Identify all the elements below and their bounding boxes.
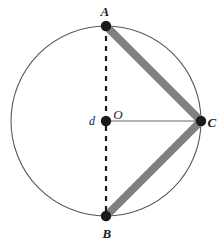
point-a-dot [101,21,111,31]
point-c-dot [196,116,206,126]
point-o-dot [101,116,111,126]
point-o-label: O [113,108,122,121]
point-c-label: C [208,116,217,129]
point-b-dot [101,211,111,221]
chord-bc [106,121,201,216]
point-a-label: A [101,5,110,18]
geometry-figure: A B C O d [0,0,223,245]
diameter-measure-label: d [89,115,95,127]
geometry-canvas [0,0,223,245]
point-b-label: B [103,227,112,240]
